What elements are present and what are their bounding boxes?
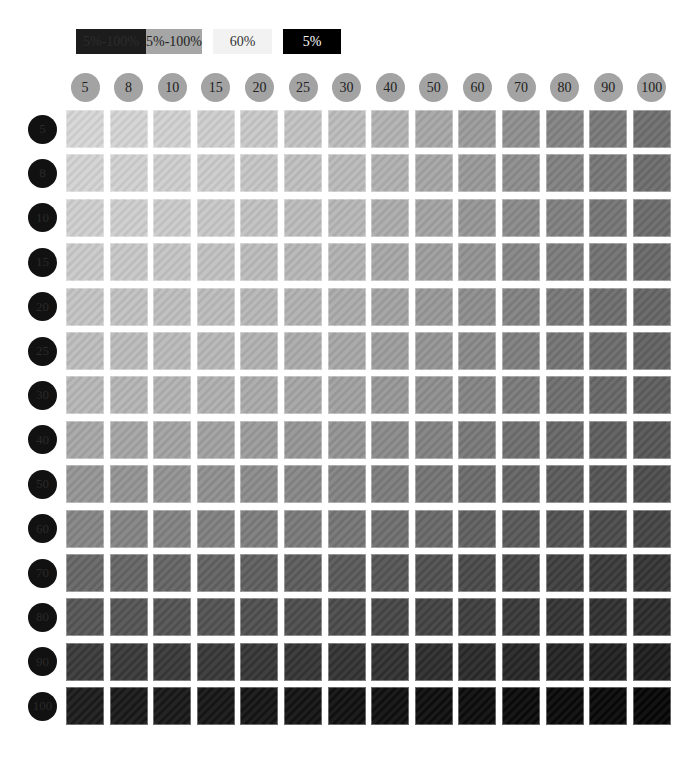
tint-cell — [633, 687, 671, 725]
tint-cell — [371, 243, 409, 281]
tint-cell — [66, 643, 104, 681]
column-header: 25 — [289, 73, 318, 102]
tint-cell — [284, 288, 322, 326]
tint-cell — [546, 243, 584, 281]
column-header: 20 — [245, 73, 274, 102]
tint-cell — [546, 465, 584, 503]
tint-cell — [633, 199, 671, 237]
tint-cell — [415, 110, 453, 148]
tint-cell — [415, 376, 453, 414]
tint-cell — [240, 421, 278, 459]
tint-cell — [284, 154, 322, 192]
tint-cell — [284, 465, 322, 503]
tint-cell — [371, 199, 409, 237]
row-header: 70 — [28, 559, 57, 588]
tint-cell — [328, 154, 366, 192]
tint-cell — [328, 376, 366, 414]
tint-cell — [633, 110, 671, 148]
tint-cell — [66, 376, 104, 414]
tint-cell — [415, 421, 453, 459]
column-header: 90 — [594, 73, 623, 102]
tint-cell — [589, 332, 627, 370]
tint-cell — [415, 199, 453, 237]
row-header: 60 — [28, 514, 57, 543]
column-header: 40 — [376, 73, 405, 102]
tint-cell — [153, 465, 191, 503]
tint-cell — [284, 110, 322, 148]
tint-cell — [110, 376, 148, 414]
tint-cell — [66, 554, 104, 592]
tint-cell — [197, 643, 235, 681]
tint-cell — [633, 598, 671, 636]
tint-cell — [546, 376, 584, 414]
tint-cell — [240, 376, 278, 414]
tint-cell — [458, 554, 496, 592]
tint-cell — [110, 465, 148, 503]
tint-cell — [110, 288, 148, 326]
tint-cell — [589, 376, 627, 414]
row-header: 15 — [28, 248, 57, 277]
tint-cell — [153, 421, 191, 459]
column-header: 5 — [71, 73, 100, 102]
column-header: 10 — [158, 73, 187, 102]
tint-cell — [240, 243, 278, 281]
tint-cell — [328, 288, 366, 326]
tint-cell — [633, 643, 671, 681]
row-header: 80 — [28, 603, 57, 632]
tint-cell — [153, 510, 191, 548]
tint-cell — [371, 465, 409, 503]
tint-cell — [110, 110, 148, 148]
tint-cell — [153, 332, 191, 370]
tint-cell — [328, 510, 366, 548]
tint-cell — [546, 643, 584, 681]
tint-cell — [110, 332, 148, 370]
tint-cell — [633, 554, 671, 592]
tint-cell — [502, 199, 540, 237]
tint-cell — [458, 288, 496, 326]
tint-cell — [502, 376, 540, 414]
tint-cell — [240, 288, 278, 326]
row-header: 25 — [28, 337, 57, 366]
tint-cell — [197, 288, 235, 326]
row-header: 8 — [28, 159, 57, 188]
tint-cell — [458, 332, 496, 370]
tint-cell — [284, 643, 322, 681]
tint-cell — [415, 465, 453, 503]
tint-cell — [197, 154, 235, 192]
tint-cell — [284, 687, 322, 725]
tint-cell — [328, 687, 366, 725]
tint-cell — [66, 465, 104, 503]
tint-cell — [153, 376, 191, 414]
tint-cell — [66, 243, 104, 281]
tint-cell — [415, 243, 453, 281]
column-header: 100 — [637, 73, 666, 102]
legend-item: 60% — [213, 29, 272, 54]
tint-cell — [240, 643, 278, 681]
tint-cell — [153, 110, 191, 148]
tint-cell — [284, 243, 322, 281]
tint-cell — [371, 643, 409, 681]
tint-cell — [66, 288, 104, 326]
tint-cell — [589, 643, 627, 681]
tint-cell — [502, 243, 540, 281]
tint-cell — [284, 421, 322, 459]
tint-cell — [197, 243, 235, 281]
tint-cell — [328, 332, 366, 370]
tint-cell — [371, 376, 409, 414]
tint-cell — [284, 332, 322, 370]
legend-item: 5%-100% — [146, 29, 202, 54]
tint-cell — [546, 421, 584, 459]
tint-cell — [633, 154, 671, 192]
tint-cell — [415, 554, 453, 592]
tint-cell — [66, 110, 104, 148]
tint-cell — [110, 421, 148, 459]
tint-cell — [371, 687, 409, 725]
tint-cell — [589, 421, 627, 459]
tint-cell — [153, 154, 191, 192]
tint-cell — [633, 288, 671, 326]
tint-cell — [66, 154, 104, 192]
tint-cell — [197, 510, 235, 548]
tint-cell — [328, 598, 366, 636]
tint-cell — [415, 332, 453, 370]
tint-cell — [153, 288, 191, 326]
